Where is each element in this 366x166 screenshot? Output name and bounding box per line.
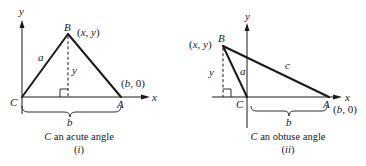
panel-numeral: (ii)	[282, 144, 295, 156]
side-c	[223, 46, 329, 97]
y-axis-label: y	[244, 10, 250, 22]
panel-obtuse-angle: y x B (x, y) y a c C A (b, 0) b C an obt…	[189, 10, 357, 156]
y-axis	[20, 20, 25, 114]
vertex-b-label: B	[218, 32, 225, 44]
vertex-c-label: C	[236, 98, 244, 110]
y-axis-label: y	[18, 5, 24, 17]
x-axis-arrow-icon	[333, 95, 342, 100]
vertex-c-label: C	[10, 96, 18, 108]
x-axis-label: x	[344, 91, 350, 103]
side-a-label: a	[38, 51, 44, 63]
vertex-b-coords: (x, y)	[77, 26, 100, 39]
right-angle-marker	[60, 89, 68, 97]
caption-text: an acute angle	[51, 131, 114, 142]
side-a-label: a	[240, 65, 246, 77]
vertex-a-coords: (b, 0)	[333, 103, 357, 116]
caption-obtuse: C an obtuse angle	[251, 131, 326, 142]
base-label: b	[67, 116, 73, 128]
side-c-label: c	[285, 59, 290, 71]
vertex-b-label: B	[64, 21, 71, 33]
vertex-a-label: A	[116, 98, 124, 110]
vertex-b-coords: (x, y)	[189, 38, 212, 51]
x-axis-arrow-icon	[141, 95, 150, 100]
y-axis-arrow-icon	[20, 20, 25, 28]
vertex-a-label: A	[322, 98, 330, 110]
x-axis-label: x	[151, 91, 157, 103]
panel-acute-angle: y x B (x, y) a y (b, 0) C A b C an acute…	[10, 5, 157, 156]
right-angle-marker	[223, 89, 231, 97]
x-axis	[22, 95, 150, 100]
vertex-a-coords: (b, 0)	[121, 77, 145, 90]
triangle-figure: y x B (x, y) a y (b, 0) C A b C an acute…	[0, 0, 366, 166]
y-axis-arrow-icon	[245, 23, 250, 31]
height-label: y	[71, 64, 77, 76]
base-label: b	[286, 116, 292, 128]
panel-numeral: (i)	[74, 144, 84, 156]
base-brace	[251, 106, 327, 116]
caption-text: an obtuse angle	[258, 131, 326, 142]
height-label: y	[208, 66, 214, 78]
caption-acute: C an acute angle	[44, 131, 114, 142]
side-a	[22, 34, 68, 97]
